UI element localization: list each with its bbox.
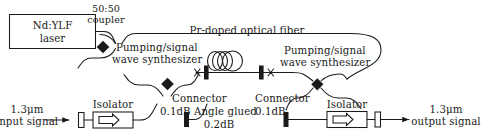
left-wave-synthesizer-node: [161, 78, 174, 91]
input-isolator-to-synth: [133, 104, 157, 120]
50-50-coupler-node: [97, 41, 110, 54]
pr-doped-fiber-label: Pr-doped optical fiber: [189, 25, 304, 36]
input-connector: [79, 113, 85, 128]
left-synthesizer-label-line1: Pumping/signal: [116, 42, 198, 53]
angle-glued-label-line1: Angle glued: [194, 106, 257, 117]
laser-box-label: Nd:YLF laser: [10, 20, 96, 46]
laser-label-line2: laser: [10, 33, 96, 46]
left-connector-label-line2: 0.1dB: [160, 106, 191, 117]
output-signal-label-line1: 1.3μm: [430, 104, 463, 115]
left-synth-lower-left-arm-upper: [78, 49, 116, 69]
right-connector-label-line1: Connector: [255, 93, 310, 104]
right-synth-upper-right-arm: [321, 74, 347, 81]
left-synthesizer-label-line2: wave synthesizer: [112, 54, 202, 65]
output-isolator-label: Isolator: [327, 99, 368, 110]
input-isolator-label: Isolator: [93, 99, 134, 110]
laser-label-line1: Nd:YLF: [10, 20, 96, 33]
fiber-connector-left: [204, 66, 209, 80]
right-synthesizer-label-line1: Pumping/signal: [284, 45, 366, 56]
right-synth-upper-left-arm: [288, 72, 313, 81]
output-connector: [375, 112, 381, 127]
coupler-label-line2: coupler: [87, 15, 125, 26]
right-synthesizer-label-line2: wave synthesizer: [280, 57, 370, 68]
angle-glued-label-line2: 0.2dB: [204, 119, 235, 130]
left-connector-label-line1: Connector: [172, 93, 227, 104]
fiber-connector-right: [259, 66, 264, 80]
fiber-amplifier-diagram: Nd:YLF laser 50:50 coupler Pr-doped opti…: [0, 0, 484, 139]
right-connector-label-line2: 0.1dB: [255, 106, 286, 117]
input-signal-label-line2: input signal: [0, 116, 58, 127]
laser-to-synthesizer-fiber: [96, 32, 116, 44]
left-synth-lower-left-arm: [124, 75, 163, 97]
output-signal-label-line2: output signal: [411, 116, 480, 127]
input-signal-label-line1: 1.3μm: [11, 104, 44, 115]
